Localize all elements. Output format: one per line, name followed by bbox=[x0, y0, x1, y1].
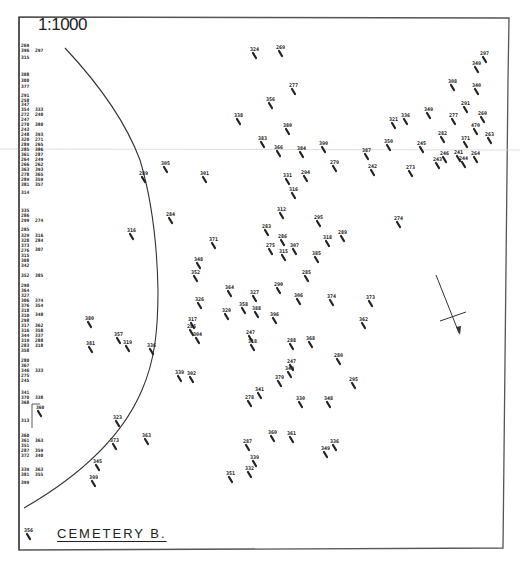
margin-entry: 381 bbox=[21, 182, 30, 187]
margin-entry: 354 bbox=[35, 303, 44, 308]
grave-icon bbox=[92, 481, 95, 486]
margin-entry: 338 bbox=[35, 395, 44, 400]
grave-marker: 263 bbox=[485, 131, 494, 143]
grave-number: 364 bbox=[225, 284, 234, 290]
grave-number: 330 bbox=[296, 395, 305, 401]
grave-marker: 360 bbox=[268, 429, 277, 441]
grave-number: 336 bbox=[330, 438, 339, 444]
grave-number: 289 bbox=[338, 229, 347, 235]
grave-icon bbox=[203, 177, 206, 182]
margin-entry: 297 bbox=[35, 48, 44, 53]
grave-marker: 264 bbox=[471, 150, 480, 162]
grave-icon bbox=[164, 167, 167, 172]
grave-marker: 338 bbox=[234, 112, 243, 124]
margin-entry: 314 bbox=[21, 190, 30, 195]
grave-icon bbox=[452, 119, 455, 124]
grave-marker: 324 bbox=[250, 46, 259, 58]
grave-marker: 361 bbox=[287, 430, 296, 442]
grave-marker: 242 bbox=[368, 163, 377, 175]
grave-number: 277 bbox=[449, 112, 458, 118]
grave-marker: 348 bbox=[194, 256, 203, 268]
grave-number: 387 bbox=[362, 147, 371, 153]
grave-number: 371 bbox=[461, 135, 470, 141]
grave-marker: 294 bbox=[301, 169, 310, 181]
grave-number: 358 bbox=[239, 301, 248, 307]
grave-icon bbox=[300, 152, 303, 157]
grave-marker: 351 bbox=[226, 470, 235, 482]
grave-marker: 390 bbox=[319, 140, 328, 152]
grave-number: 316 bbox=[127, 227, 136, 233]
grave-icon bbox=[279, 51, 282, 56]
grave-marker: 345 bbox=[93, 458, 102, 470]
grave-icon bbox=[290, 437, 293, 442]
grave-number: 308 bbox=[448, 78, 457, 84]
grave-icon bbox=[333, 166, 336, 171]
grave-number: 332 bbox=[245, 465, 254, 471]
graves-layer: 3242692973492773083403562913383493363212… bbox=[24, 44, 494, 539]
grave-icon bbox=[269, 103, 272, 108]
cemetery-map: 3242692973492773083403562913383493363212… bbox=[0, 0, 520, 561]
grave-number: 363 bbox=[142, 432, 151, 438]
grave-marker: 291 bbox=[461, 100, 470, 112]
margin-entry: 300 bbox=[21, 78, 30, 83]
grave-number: 339 bbox=[175, 369, 184, 375]
grave-icon bbox=[194, 276, 197, 281]
grave-number: 286 bbox=[187, 323, 196, 329]
margin-entry: 240 bbox=[35, 112, 44, 117]
grave-number: 341 bbox=[255, 386, 264, 392]
grave-icon bbox=[352, 383, 355, 388]
grave-icon bbox=[281, 240, 284, 245]
grave-marker: 380 bbox=[85, 315, 94, 327]
grave-marker: 304 bbox=[193, 331, 202, 343]
grave-marker: 308 bbox=[448, 78, 457, 90]
grave-number: 263 bbox=[485, 131, 494, 137]
grave-marker: 470 bbox=[471, 122, 480, 134]
grave-number: 280 bbox=[334, 352, 343, 358]
grave-marker: 396 bbox=[270, 311, 279, 323]
grave-icon bbox=[145, 439, 148, 444]
grave-number: 282 bbox=[438, 130, 447, 136]
grave-icon bbox=[27, 534, 30, 539]
margin-entry: 313 bbox=[21, 418, 30, 423]
grave-number: 274 bbox=[394, 215, 403, 221]
grave-number: 384 bbox=[297, 145, 306, 151]
grave-number: 399 bbox=[89, 474, 98, 480]
grave-marker: 373 bbox=[110, 437, 119, 449]
margin-entry: 318 bbox=[35, 343, 44, 348]
grave-number: 294 bbox=[301, 169, 310, 175]
grave-number: 243 bbox=[433, 156, 442, 162]
grave-icon bbox=[196, 338, 199, 343]
grave-icon bbox=[322, 147, 325, 152]
grave-marker: 284 bbox=[166, 211, 175, 223]
grave-marker: 327 bbox=[250, 289, 259, 301]
grave-icon bbox=[299, 402, 302, 407]
grave-number: 390 bbox=[319, 140, 328, 146]
grave-icon bbox=[253, 296, 256, 301]
grave-marker: 332 bbox=[245, 465, 254, 477]
grave-icon bbox=[237, 119, 240, 124]
grave-marker: 356 bbox=[266, 96, 275, 108]
grave-number: 289 bbox=[139, 170, 148, 176]
grave-icon bbox=[427, 113, 430, 118]
grave-number: 319 bbox=[123, 339, 132, 345]
grave-number: 388 bbox=[252, 305, 261, 311]
grave-icon bbox=[277, 151, 280, 156]
grave-icon bbox=[126, 346, 129, 351]
grave-number: 277 bbox=[289, 82, 298, 88]
grave-marker: 358 bbox=[239, 301, 248, 313]
grave-number: 396 bbox=[270, 311, 279, 317]
grave-number: 356 bbox=[24, 527, 33, 533]
grave-marker: 289 bbox=[338, 229, 347, 241]
grave-marker: 316 bbox=[127, 227, 136, 239]
margin-entry: 308 bbox=[21, 72, 30, 77]
grave-number: 368 bbox=[306, 335, 315, 341]
grave-icon bbox=[225, 314, 228, 319]
grave-marker: 288 bbox=[287, 337, 296, 349]
grave-marker: 326 bbox=[195, 296, 204, 308]
grave-icon bbox=[113, 444, 116, 449]
grave-number: 316 bbox=[289, 186, 298, 192]
grave-marker: 279 bbox=[330, 159, 339, 171]
grave-number: 287 bbox=[243, 438, 252, 444]
grave-number: 326 bbox=[195, 296, 204, 302]
grave-number: 373 bbox=[366, 294, 375, 300]
